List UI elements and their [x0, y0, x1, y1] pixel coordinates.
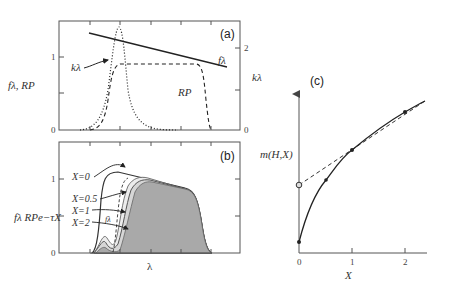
panel-a-tick-1: 1: [51, 52, 56, 62]
panel-b-x-axis-label: λ: [147, 260, 153, 272]
point-x0-5: [324, 178, 328, 182]
rp-dashed-curve: [90, 64, 211, 130]
panel-c-ticks: [352, 248, 405, 253]
f-lambda-line: [89, 33, 227, 67]
label-x1: X=1: [71, 205, 90, 216]
inner-f-lambda-label: fλ: [105, 215, 111, 224]
panel-a-label: (a): [220, 27, 235, 41]
panel-c-x-axis-label: X: [344, 269, 353, 281]
panel-a-right-axis-label: kλ: [252, 71, 262, 83]
panel-b-tick-1: 1: [51, 174, 56, 184]
k-lambda-arrow: [84, 60, 108, 68]
panel-a-tick-0: 0: [51, 125, 56, 135]
panel-a-top-ticks: [59, 21, 240, 130]
panel-a: 1 0 2 0 (a) fλ RP kλ fλ, RP kλ: [8, 21, 262, 135]
m-curve: [299, 101, 425, 242]
panel-a-left-axis-label: fλ, RP: [8, 79, 35, 91]
panel-b-tick-0: 0: [51, 248, 56, 258]
x-tick-1: 1: [350, 257, 355, 267]
panel-a-frame: [59, 21, 240, 130]
figure: 1 0 2 0 (a) fλ RP kλ fλ, RP kλ: [0, 0, 450, 299]
x-tick-0: 0: [297, 257, 302, 267]
panel-a-right-tick-2: 2: [244, 43, 249, 53]
point-x0: [297, 240, 301, 244]
panel-b-label: (b): [220, 149, 235, 163]
intercept-open-circle: [296, 182, 302, 188]
k-lambda-label: kλ: [71, 61, 81, 73]
label-x0: X=0: [71, 171, 90, 182]
panel-c: 0 1 2 X m(H,X) (c): [260, 74, 427, 281]
panel-b: 1 0 (b) fλ RPe−τX λ X=0 X=0.5 X=1 X=2 fλ: [14, 142, 240, 272]
x-tick-2: 2: [403, 257, 408, 267]
panel-b-y-axis-label: fλ RPe−τX: [14, 211, 62, 223]
panel-c-label: (c): [310, 74, 324, 88]
rp-label: RP: [177, 86, 192, 98]
label-x0-5: X=0.5: [71, 193, 97, 204]
point-x2: [403, 110, 407, 114]
f-lambda-label: fλ: [218, 54, 226, 66]
label-x2: X=2: [71, 217, 90, 228]
panel-a-right-tick-0: 0: [244, 125, 249, 135]
panel-c-y-axis-label: m(H,X): [260, 148, 293, 161]
point-x1: [350, 148, 354, 152]
